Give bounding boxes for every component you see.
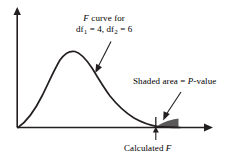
curve-label-line-1-rest: curve for xyxy=(89,13,125,23)
curve-label-line-2: df1 = 4, df2 = 6 xyxy=(76,24,132,38)
f-distribution-figure: F curve for df1 = 4, df2 = 6 Shaded area… xyxy=(0,0,242,160)
curve-label-leader-arrow xyxy=(95,42,111,74)
x-axis xyxy=(17,124,213,132)
f-curve xyxy=(18,51,180,127)
y-axis xyxy=(14,7,21,128)
x-axis-f-symbol: F xyxy=(166,143,172,153)
df2-value: = 6 xyxy=(118,24,132,34)
df1-name: df xyxy=(76,24,84,34)
shaded-area-label-prefix: Shaded area = xyxy=(133,76,188,86)
calculated-f-marker xyxy=(153,117,159,140)
curve-label-line-1: F curve for xyxy=(76,13,132,24)
shaded-area-label-suffix: -value xyxy=(193,76,216,86)
curve-label: F curve for df1 = 4, df2 = 6 xyxy=(76,13,132,38)
x-axis-label: Calculated F xyxy=(124,143,171,154)
shaded-area-label: Shaded area = P-value xyxy=(133,76,216,87)
df1-value: = 4, xyxy=(87,24,106,34)
shaded-label-leader-arrow xyxy=(163,92,181,121)
x-axis-label-prefix: Calculated xyxy=(124,143,166,153)
